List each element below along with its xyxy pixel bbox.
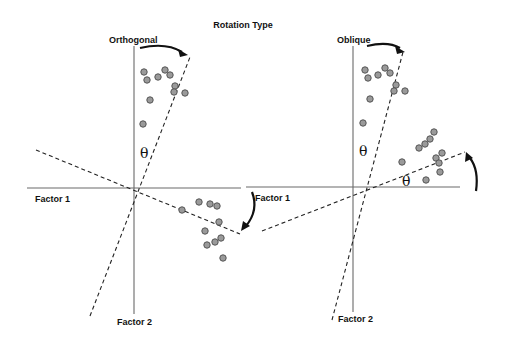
data-point bbox=[162, 67, 168, 73]
data-point bbox=[362, 67, 368, 73]
data-point bbox=[196, 199, 202, 205]
orthogonal-theta-symbol: θ bbox=[140, 145, 148, 161]
data-point bbox=[375, 72, 381, 78]
data-point bbox=[427, 136, 433, 142]
data-point bbox=[367, 96, 373, 102]
data-point bbox=[402, 88, 408, 94]
data-point bbox=[399, 159, 405, 165]
data-point bbox=[202, 228, 208, 234]
data-point bbox=[422, 141, 428, 147]
rotation-type-diagram: Rotation Type Orthogonal Factor 1 Factor… bbox=[0, 0, 505, 339]
data-point bbox=[220, 255, 226, 261]
diagram-title: Rotation Type bbox=[213, 20, 272, 30]
oblique-panel: Oblique Factor 1 Factor 2 θ θ bbox=[246, 35, 477, 324]
orthogonal-rotated-factor1-line bbox=[36, 150, 240, 234]
orthogonal-label: Orthogonal bbox=[109, 35, 158, 45]
data-point bbox=[218, 235, 224, 241]
data-point bbox=[436, 160, 442, 166]
data-point bbox=[167, 72, 173, 78]
orthogonal-data-points bbox=[140, 67, 226, 261]
data-point bbox=[144, 77, 150, 83]
data-point bbox=[204, 242, 210, 248]
data-point bbox=[179, 207, 185, 213]
data-point bbox=[393, 82, 399, 88]
oblique-label: Oblique bbox=[337, 35, 371, 45]
data-point bbox=[423, 177, 429, 183]
oblique-factor2-label: Factor 2 bbox=[338, 314, 373, 324]
oblique-top-arrow-icon bbox=[367, 44, 405, 54]
data-point bbox=[214, 203, 220, 209]
data-point bbox=[155, 74, 161, 80]
orthogonal-right-arrow-icon bbox=[241, 192, 254, 231]
data-point bbox=[182, 90, 188, 96]
data-point bbox=[207, 201, 213, 207]
data-point bbox=[147, 97, 153, 103]
oblique-data-points bbox=[360, 65, 445, 183]
orthogonal-factor1-label: Factor 1 bbox=[35, 194, 70, 204]
data-point bbox=[171, 89, 177, 95]
orthogonal-top-arrow-icon bbox=[140, 46, 188, 57]
data-point bbox=[416, 145, 422, 151]
data-point bbox=[387, 70, 393, 76]
data-point bbox=[365, 75, 371, 81]
data-point bbox=[212, 239, 218, 245]
oblique-rotated-factor1-line bbox=[262, 152, 465, 231]
oblique-theta-horizontal-symbol: θ bbox=[402, 173, 410, 189]
orthogonal-panel: Orthogonal Factor 1 Factor 2 θ bbox=[27, 35, 254, 327]
data-point bbox=[437, 169, 443, 175]
data-point bbox=[360, 120, 366, 126]
data-point bbox=[439, 150, 445, 156]
orthogonal-factor2-label: Factor 2 bbox=[117, 317, 152, 327]
oblique-theta-vertical-symbol: θ bbox=[359, 143, 367, 159]
data-point bbox=[391, 88, 397, 94]
data-point bbox=[172, 83, 178, 89]
data-point bbox=[382, 65, 388, 71]
orthogonal-rotated-factor2-line bbox=[90, 57, 190, 316]
data-point bbox=[141, 69, 147, 75]
oblique-factor1-label: Factor 1 bbox=[255, 193, 290, 203]
data-point bbox=[140, 121, 146, 127]
data-point bbox=[431, 129, 437, 135]
oblique-right-arrow-icon bbox=[465, 152, 477, 191]
data-point bbox=[216, 219, 222, 225]
